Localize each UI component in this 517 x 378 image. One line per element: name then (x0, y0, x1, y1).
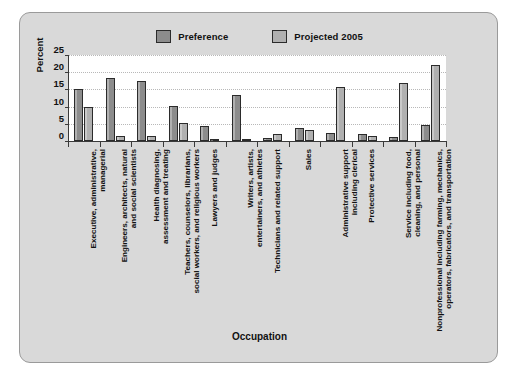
bar-projected-2005-6[interactable] (273, 134, 282, 141)
x-category-label-line: Engineers, architects, natural (120, 149, 129, 262)
x-category-label-7: Sales (304, 149, 313, 170)
x-category-label-line: Teachers, counselors, librarians, (183, 149, 192, 293)
x-category-label-8: Administrative supportincluding clerical (341, 149, 360, 238)
x-category-label-6: Technicians and related support (273, 149, 282, 273)
x-category-label-line: cleaning, and personal (413, 149, 422, 238)
bar-highlight (422, 126, 424, 140)
x-category-label-line: managerial (98, 149, 107, 248)
chart-figure-frame: Preference Projected 2005 Percent 25 20 … (19, 12, 498, 363)
x-category-label-line: Administrative support (341, 149, 350, 238)
x-category-label-line: operators, fabricators, and transportati… (445, 149, 454, 332)
bar-projected-2005-10[interactable] (399, 83, 408, 141)
bar-preference-11[interactable] (421, 125, 430, 141)
x-tickmark-8 (320, 141, 321, 147)
y-tick-25: 25 (53, 45, 64, 55)
bar-preference-4[interactable] (200, 126, 209, 141)
bar-projected-2005-11[interactable] (431, 65, 440, 141)
x-category-label-line: Executive, administrative, (89, 149, 98, 248)
bar-highlight (85, 108, 87, 140)
bar-highlight (75, 90, 77, 140)
bar-preference-2[interactable] (137, 81, 146, 141)
x-category-label-0: Executive, administrative,managerial (89, 149, 108, 248)
bars-layer (68, 55, 446, 141)
x-category-label-line: Nonprofessional including farming, mecha… (435, 149, 444, 332)
bar-preference-7[interactable] (295, 128, 304, 141)
bar-projected-2005-0[interactable] (84, 107, 93, 141)
y-tick-10: 10 (53, 97, 64, 107)
x-axis-tickmarks (68, 141, 446, 147)
bar-preference-3[interactable] (169, 106, 178, 141)
x-category-label-1: Engineers, architects, naturaland social… (120, 149, 139, 262)
bar-highlight (274, 135, 276, 140)
x-tickmark-11 (415, 141, 416, 147)
x-tickmark-9 (352, 141, 353, 147)
bar-highlight (180, 124, 182, 140)
bar-preference-5[interactable] (232, 95, 241, 141)
bar-highlight (107, 79, 109, 140)
bar-highlight (296, 129, 298, 140)
x-category-label-line: Protective services (367, 149, 376, 223)
x-category-label-line: Writers, artists, (246, 149, 255, 247)
y-axis-tick-labels: 25 20 15 10 5 0 (42, 50, 64, 142)
y-tick-20: 20 (53, 62, 64, 72)
bar-highlight (233, 96, 235, 140)
x-category-label-line: and social scientists (130, 149, 139, 262)
x-category-label-line: Service including food, (404, 149, 413, 238)
x-category-label-10: Service including food,cleaning, and per… (404, 149, 423, 238)
x-tickmark-7 (289, 141, 290, 147)
bar-highlight (390, 138, 392, 140)
bar-highlight (170, 107, 172, 140)
bar-preference-1[interactable] (106, 78, 115, 141)
x-tickmark-3 (163, 141, 164, 147)
bar-highlight (138, 82, 140, 140)
x-tickmark-10 (383, 141, 384, 147)
bar-highlight (400, 84, 402, 140)
bar-projected-2005-3[interactable] (179, 123, 188, 141)
x-category-label-line: entertainers, and athletes (256, 149, 265, 247)
bar-highlight (337, 88, 339, 140)
x-tickmark-1 (100, 141, 101, 147)
bar-highlight (369, 137, 371, 140)
y-tick-15: 15 (53, 80, 64, 90)
x-category-label-9: Protective services (367, 149, 376, 223)
x-category-label-5: Writers, artists,entertainers, and athle… (246, 149, 265, 247)
bar-highlight (148, 137, 150, 140)
bar-highlight (306, 131, 308, 140)
bar-projected-2005-8[interactable] (336, 87, 345, 141)
x-category-label-line: Technicians and related support (273, 149, 282, 273)
plot-wrapper: Percent 25 20 15 10 5 0 (20, 13, 498, 363)
x-category-label-line: including clerical (350, 149, 359, 238)
x-category-label-line: Lawyers and judges (210, 149, 219, 226)
bar-preference-8[interactable] (326, 133, 335, 141)
x-category-label-2: Health diagnosing,assessment and treatin… (152, 149, 171, 244)
x-category-label-4: Lawyers and judges (210, 149, 219, 226)
bar-preference-9[interactable] (358, 134, 367, 141)
x-tickmark-2 (131, 141, 132, 147)
x-category-label-line: assessment and treating (161, 149, 170, 244)
bar-highlight (264, 139, 266, 140)
x-tickmark-4 (194, 141, 195, 147)
x-tickmark-0 (68, 141, 69, 147)
x-category-label-line: Health diagnosing, (152, 149, 161, 244)
y-tick-0: 0 (59, 131, 64, 141)
bar-highlight (117, 137, 119, 141)
x-category-label-line: social workers, and religious workers (193, 149, 202, 293)
bar-highlight (327, 134, 329, 140)
bar-preference-0[interactable] (74, 89, 83, 141)
x-tickmark-end (446, 141, 447, 147)
bar-highlight (432, 66, 434, 140)
bar-projected-2005-7[interactable] (305, 130, 314, 141)
x-tickmark-5 (226, 141, 227, 147)
x-axis-title: Occupation (20, 331, 498, 342)
x-axis-category-labels: Executive, administrative,managerialEngi… (68, 149, 446, 319)
bar-highlight (359, 135, 361, 140)
x-category-label-line: Sales (304, 149, 313, 170)
x-tickmark-6 (257, 141, 258, 147)
y-tick-5: 5 (59, 114, 64, 124)
x-category-label-11: Nonprofessional including farming, mecha… (435, 149, 454, 332)
x-category-label-3: Teachers, counselors, librarians,social … (183, 149, 202, 293)
bar-highlight (201, 127, 203, 140)
